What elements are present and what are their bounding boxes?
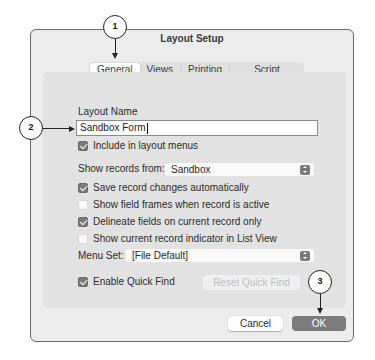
menu-set-popup[interactable]: [File Default] (126, 249, 314, 262)
popup-stepper-icon (300, 251, 310, 261)
show-field-frames-checkbox[interactable]: Show field frames when record is active (78, 199, 269, 210)
arrow-down-icon (317, 308, 323, 314)
show-records-from-popup[interactable]: Sandbox (165, 163, 314, 176)
layout-name-label: Layout Name (78, 106, 137, 117)
menu-set-value: [File Default] (132, 250, 188, 261)
checkbox-checked-icon (78, 141, 88, 151)
callout-1-line (115, 39, 116, 53)
enable-quick-find-label: Enable Quick Find (93, 276, 175, 287)
layout-name-field[interactable]: Sandbox Form (76, 120, 318, 136)
checkbox-checked-icon (78, 183, 88, 193)
delineate-fields-checkbox[interactable]: Delineate fields on current record only (78, 216, 261, 227)
dialog-title: Layout Setup (30, 30, 354, 48)
show-field-frames-label: Show field frames when record is active (93, 199, 269, 210)
show-records-from-value: Sandbox (171, 164, 210, 175)
callout-2: 2 (19, 116, 43, 140)
callout-2-line (43, 128, 69, 129)
menu-set-label: Menu Set: (78, 250, 124, 261)
record-indicator-checkbox[interactable]: Show current record indicator in List Vi… (78, 233, 277, 244)
enable-quick-find-checkbox[interactable]: Enable Quick Find (78, 276, 175, 287)
callout-3-line (320, 294, 321, 308)
checkbox-checked-icon (78, 277, 88, 287)
include-in-menus-label: Include in layout menus (93, 140, 198, 151)
layout-name-value: Sandbox Form (80, 122, 146, 133)
callout-1: 1 (103, 15, 127, 39)
checkbox-checked-icon (78, 217, 88, 227)
arrow-right-icon (69, 126, 75, 132)
text-caret (147, 123, 148, 134)
checkbox-unchecked-icon (78, 200, 88, 210)
delineate-fields-label: Delineate fields on current record only (93, 216, 261, 227)
save-changes-checkbox[interactable]: Save record changes automatically (78, 182, 249, 193)
save-changes-label: Save record changes automatically (93, 182, 249, 193)
include-in-menus-checkbox[interactable]: Include in layout menus (78, 140, 198, 151)
callout-3: 3 (308, 270, 332, 294)
show-records-from-label: Show records from: (78, 163, 165, 174)
arrow-down-icon (112, 53, 118, 59)
checkbox-unchecked-icon (78, 234, 88, 244)
ok-button[interactable]: OK (292, 316, 346, 331)
cancel-button[interactable]: Cancel (228, 316, 283, 331)
reset-quick-find-button[interactable]: Reset Quick Find (203, 275, 300, 290)
record-indicator-label: Show current record indicator in List Vi… (93, 233, 277, 244)
popup-stepper-icon (300, 165, 310, 175)
